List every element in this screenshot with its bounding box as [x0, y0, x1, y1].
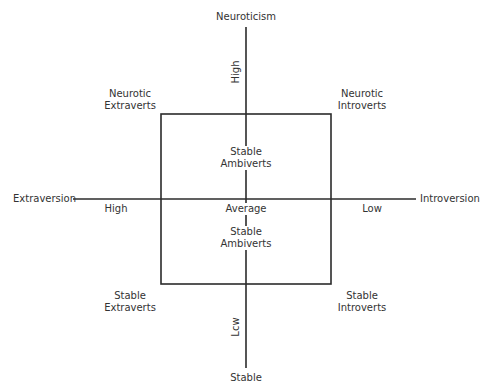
quadrant-line-2: Extraverts	[104, 302, 156, 314]
inner-line-1: Stable	[220, 226, 271, 238]
quadrant-line-1: Neurotic	[104, 88, 156, 100]
horizontal-low-label: Low	[362, 203, 382, 215]
stable-introverts-label: Stable Introverts	[338, 290, 387, 314]
horizontal-high-label: High	[105, 203, 128, 215]
quadrant-line-1: Neurotic	[338, 88, 387, 100]
introversion-label: Introversion	[420, 193, 480, 205]
stable-extraverts-label: Stable Extraverts	[104, 290, 156, 314]
quadrant-line-2: Introverts	[338, 302, 387, 314]
quadrant-line-2: Extraverts	[104, 100, 156, 112]
quadrant-line-1: Stable	[104, 290, 156, 302]
vertical-high-label: High	[230, 59, 242, 86]
inner-line-2: Ambiverts	[220, 158, 271, 170]
extraversion-label: Extraversion	[13, 193, 76, 205]
stable-ambiverts-lower-label: Stable Ambiverts	[218, 226, 273, 250]
vertical-low-label: Lcw	[230, 315, 242, 338]
neurotic-extraverts-label: Neurotic Extraverts	[104, 88, 156, 112]
stable-ambiverts-upper-label: Stable Ambiverts	[218, 146, 273, 170]
inner-line-1: Stable	[220, 146, 271, 158]
neurotic-introverts-label: Neurotic Introverts	[338, 88, 387, 112]
personality-diagram: Neuroticism Stable High Lcw Extraversion…	[0, 0, 486, 392]
quadrant-line-1: Stable	[338, 290, 387, 302]
average-label: Average	[223, 203, 268, 215]
quadrant-line-2: Introverts	[338, 100, 387, 112]
neuroticism-label: Neuroticism	[216, 11, 276, 23]
inner-line-2: Ambiverts	[220, 238, 271, 250]
stable-label: Stable	[230, 372, 262, 384]
